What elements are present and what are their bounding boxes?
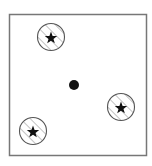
target-bottom-left — [20, 118, 47, 145]
center-dot — [69, 80, 79, 90]
target-top-left — [38, 24, 65, 51]
diagram-canvas — [0, 0, 152, 166]
target-right — [108, 94, 135, 121]
